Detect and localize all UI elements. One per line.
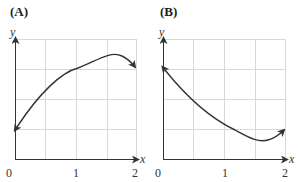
chart-a-tick-1: 1 [73, 166, 79, 180]
chart-a: y x 0 1 2 [6, 25, 146, 180]
chart-a-x-label: x [139, 152, 146, 166]
chart-b-x-label: x [288, 152, 295, 166]
charts: y x 0 1 2 y x 0 1 2 [0, 0, 298, 182]
chart-b-y-label: y [158, 25, 165, 39]
chart-b-tick-2: 2 [282, 166, 288, 180]
chart-a-tick-2: 2 [132, 166, 138, 180]
chart-a-y-label: y [9, 25, 16, 39]
chart-b-tick-1: 1 [222, 166, 228, 180]
chart-b-tick-0: 0 [155, 166, 161, 180]
chart-b-grid [163, 39, 286, 159]
chart-b: y x 0 1 2 [155, 25, 295, 180]
chart-a-tick-0: 0 [6, 166, 12, 180]
chart-a-grid [15, 39, 137, 159]
